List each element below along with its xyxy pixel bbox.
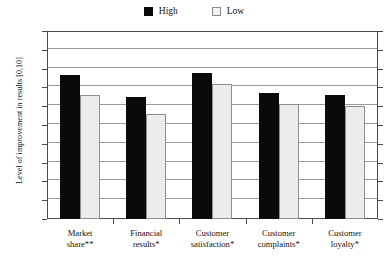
bar-group <box>113 31 179 219</box>
bar-low <box>212 84 232 219</box>
category-separator <box>179 219 180 224</box>
y-tick-mark-right <box>378 125 383 126</box>
x-axis-labels: Marketshare**Financialresults*Customersa… <box>47 228 378 262</box>
category-separator <box>113 219 114 224</box>
y-tick-mark-right <box>378 219 383 220</box>
x-axis-label: Customerloyalty* <box>312 228 378 250</box>
bar-low <box>345 106 365 219</box>
bar-group <box>179 31 245 219</box>
black-square-swatch-icon <box>144 7 153 16</box>
y-tick-mark <box>42 219 47 220</box>
y-tick-mark-right <box>378 106 383 107</box>
y-tick-mark-right <box>378 87 383 88</box>
white-square-swatch-icon <box>212 7 221 16</box>
y-tick-mark-right <box>378 144 383 145</box>
bar-high <box>325 95 345 219</box>
bar-low <box>279 104 299 219</box>
bar-chart: High Low Level of improvement in results… <box>0 0 388 264</box>
bar-high <box>126 97 146 219</box>
bar-group <box>47 31 113 219</box>
bar-high <box>192 73 212 219</box>
legend-label-high: High <box>159 6 178 16</box>
x-axis-label: Marketshare** <box>47 228 113 250</box>
category-separator <box>312 219 313 224</box>
bar-high <box>60 75 80 219</box>
x-axis-label: Customersatisfaction* <box>179 228 245 250</box>
y-tick-mark-right <box>378 181 383 182</box>
bar-group <box>246 31 312 219</box>
y-tick-mark-right <box>378 31 383 32</box>
x-axis-label: Customercomplaints* <box>246 228 312 250</box>
y-axis-title: Level of improvement in results [0,10] <box>15 26 24 216</box>
legend-entry-low: Low <box>212 6 244 16</box>
chart-legend: High Low <box>0 6 388 16</box>
legend-entry-high: High <box>144 6 178 16</box>
bars-layer <box>47 31 378 219</box>
category-separator <box>246 219 247 224</box>
y-tick-mark-right <box>378 50 383 51</box>
bar-low <box>146 114 166 219</box>
y-tick-mark-right <box>378 163 383 164</box>
y-tick-mark-right <box>378 200 383 201</box>
bar-high <box>259 93 279 219</box>
legend-label-low: Low <box>227 6 244 16</box>
bar-group <box>312 31 378 219</box>
y-tick-mark-right <box>378 69 383 70</box>
x-axis-label: Financialresults* <box>113 228 179 250</box>
bar-low <box>80 95 100 219</box>
